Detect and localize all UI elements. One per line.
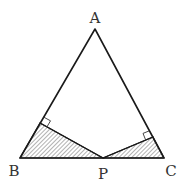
shaded-triangle-left bbox=[20, 123, 103, 158]
label-c: C bbox=[165, 162, 176, 180]
triangle-diagram: A B C P bbox=[0, 0, 185, 190]
label-a: A bbox=[89, 9, 101, 27]
label-b: B bbox=[8, 162, 19, 180]
label-p: P bbox=[98, 165, 108, 183]
